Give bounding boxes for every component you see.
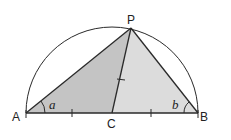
angle-label-b: b: [172, 97, 179, 112]
geometry-figure: A B C P a b: [0, 0, 231, 140]
angle-label-a: a: [49, 97, 56, 112]
label-B: B: [200, 110, 208, 124]
label-C: C: [107, 117, 116, 131]
diagram: A B C P a b: [0, 0, 231, 140]
label-A: A: [12, 110, 20, 124]
label-P: P: [127, 13, 135, 27]
